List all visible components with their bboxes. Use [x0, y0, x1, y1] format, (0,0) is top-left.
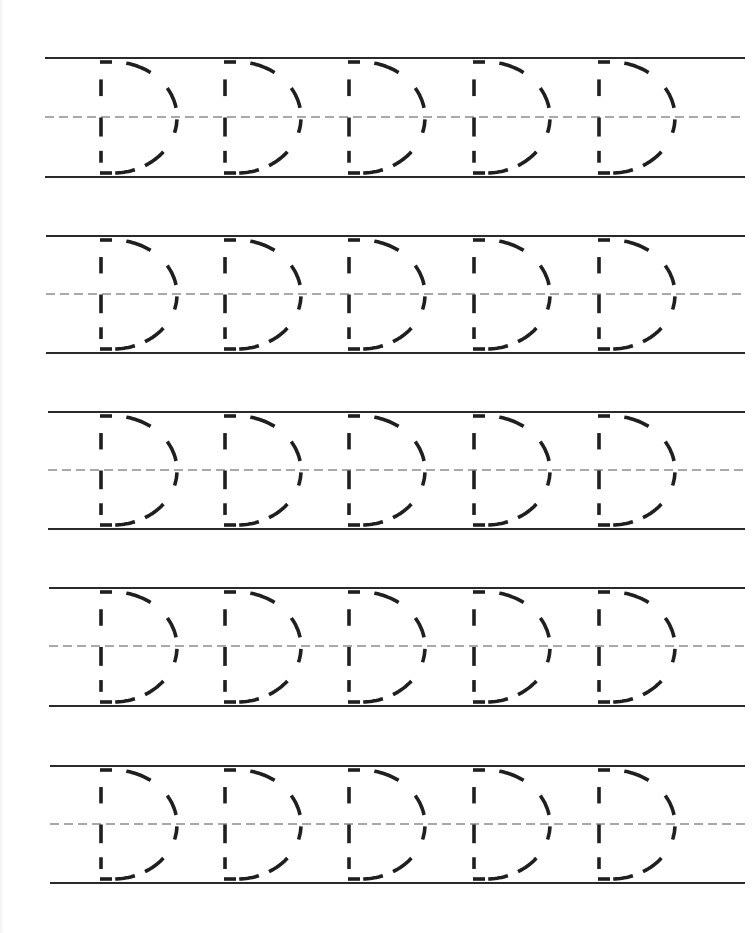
practice-row	[50, 766, 745, 883]
practice-row	[49, 588, 745, 706]
traceable-letter-d	[598, 592, 675, 702]
traceable-letter-d	[100, 592, 177, 702]
practice-row	[48, 412, 745, 529]
practice-row	[45, 58, 745, 177]
practice-row	[46, 236, 745, 353]
traceable-letter-d	[348, 592, 425, 702]
traceable-letter-d	[473, 592, 550, 702]
handwriting-worksheet	[0, 0, 753, 933]
traceable-letter-d	[598, 770, 675, 879]
traceable-letter-d	[224, 592, 301, 702]
